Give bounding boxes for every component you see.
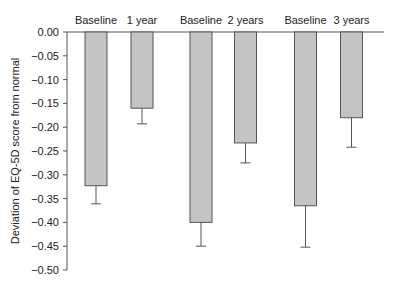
category-label: 1 year <box>127 14 158 26</box>
y-tick-label: −0.50 <box>31 264 59 276</box>
bar <box>131 32 153 108</box>
bar <box>341 32 363 118</box>
y-tick-label: −0.30 <box>31 169 59 181</box>
bar <box>235 32 257 143</box>
bar-chart: 0.00−0.05−0.10−0.15−0.20−0.25−0.30−0.35−… <box>0 0 402 290</box>
category-labels: Baseline1 yearBaseline2 yearsBaseline3 y… <box>75 14 370 26</box>
y-tick-label: −0.25 <box>31 145 59 157</box>
y-tick-label: −0.45 <box>31 240 59 252</box>
y-axis-label: Deviation of EQ-5D score from normal <box>9 58 21 244</box>
y-tick-label: −0.40 <box>31 216 59 228</box>
bar <box>190 32 212 222</box>
category-label: Baseline <box>75 14 117 26</box>
y-tick-label: −0.35 <box>31 193 59 205</box>
bar <box>295 32 317 206</box>
bar <box>85 32 107 186</box>
y-tick-label: −0.15 <box>31 97 59 109</box>
y-tick-label: −0.20 <box>31 121 59 133</box>
category-label: 2 years <box>227 14 264 26</box>
y-tick-label: 0.00 <box>38 26 59 38</box>
bars <box>85 32 363 247</box>
y-tick-label: −0.05 <box>31 50 59 62</box>
y-tick-label: −0.10 <box>31 74 59 86</box>
category-label: Baseline <box>180 14 222 26</box>
category-label: Baseline <box>284 14 326 26</box>
category-label: 3 years <box>333 14 370 26</box>
